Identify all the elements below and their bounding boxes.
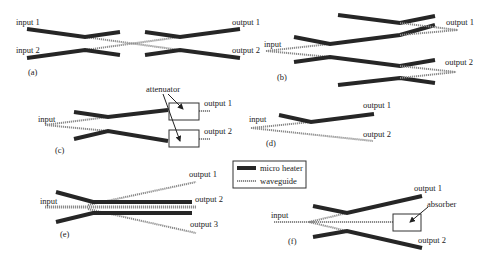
waveguide-c-in2: [45, 125, 108, 131]
legend-micro-heater-label: micro heater: [260, 163, 303, 173]
label-input: input: [40, 196, 58, 206]
label-input: input: [264, 39, 282, 49]
panel-f: absorber input output 1 output 2 (f): [271, 183, 456, 248]
label-output-1: output 1: [189, 169, 217, 179]
label-attenuator: attenuator: [146, 84, 180, 94]
label-output-2: output 2: [418, 235, 446, 245]
heater-f-upper: [313, 196, 422, 213]
panel-a: input 1 input 2 output 1 output 2 (a): [16, 17, 260, 77]
panel-tag-c: (c): [55, 145, 65, 155]
waveguide-b-in2: [266, 51, 330, 57]
label-output-2: output 2: [445, 57, 473, 67]
heater-b-top: [338, 15, 435, 23]
label-output-2: output 2: [204, 126, 232, 136]
label-input: input: [249, 114, 267, 124]
waveguide-b-out2b: [400, 72, 456, 78]
heater-a-bottom-right: [145, 50, 240, 58]
panel-b: input output 1 output 2 (b): [264, 15, 474, 85]
label-output-2: output 2: [232, 45, 260, 55]
heater-b-upper-arm: [294, 25, 435, 44]
label-output-2: output 2: [363, 129, 391, 139]
label-output-1: output 1: [363, 100, 391, 110]
waveguide-f-up: [309, 213, 347, 222]
panel-d: input output 1 output 2 (d): [249, 100, 391, 148]
heater-d: [279, 114, 374, 122]
diagram-canvas: input 1 input 2 output 1 output 2 (a) in…: [0, 0, 486, 263]
panel-c: attenuator input output 1 output 2 (c): [38, 84, 232, 155]
panel-tag-a: (a): [28, 67, 38, 77]
panel-e: input output 1 output 2 output 3 (e): [40, 169, 223, 239]
legend-waveguide-label: waveguide: [260, 176, 297, 186]
panel-tag-d: (d): [266, 138, 276, 148]
panel-tag-b: (b): [277, 72, 287, 82]
waveguide-f-down: [309, 222, 347, 231]
label-output-3: output 3: [190, 219, 218, 229]
heater-c-lower: [74, 131, 168, 141]
heater-f-lower: [313, 231, 422, 248]
heater-a-top-right: [145, 29, 240, 37]
panel-tag-f: (f): [288, 236, 297, 246]
attenuator-box-1: [169, 103, 199, 120]
label-output-1: output 1: [414, 183, 442, 193]
label-output-1: output 1: [204, 98, 232, 108]
label-output-1: output 1: [232, 17, 260, 27]
panel-tag-e: (e): [60, 229, 70, 239]
heater-b-lower-arm: [294, 57, 435, 66]
label-output-2: output 2: [195, 194, 223, 204]
legend: micro heater waveguide: [233, 161, 306, 188]
label-input-1: input 1: [16, 17, 40, 27]
label-input: input: [38, 114, 56, 124]
label-input: input: [271, 210, 289, 220]
heater-b-bottom: [338, 78, 435, 85]
label-input-2: input 2: [16, 45, 40, 55]
attenuator-box-2: [169, 130, 199, 147]
label-absorber: absorber: [427, 199, 456, 209]
heater-a-bottom-left: [27, 50, 120, 58]
heater-a-top-left: [27, 29, 120, 37]
label-output-1: output 1: [446, 17, 474, 27]
heater-c-upper: [74, 110, 168, 117]
